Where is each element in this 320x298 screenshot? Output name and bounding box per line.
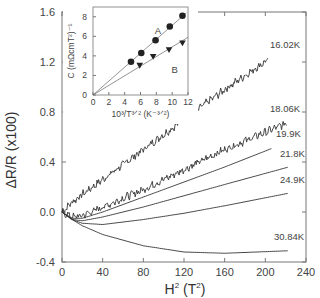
curve-label: 16.02K (270, 39, 301, 50)
inset-x-tick: 2 (106, 97, 111, 107)
inset-x-tick: 0 (91, 97, 96, 107)
marker-circle (179, 13, 186, 20)
inset-y-tick: 2 (82, 70, 87, 80)
y-axis-label: ΔR/R (x100) (3, 111, 19, 188)
y-tick-label: 0.8 (40, 106, 55, 118)
inset-chart: 0246810120246810³/T³ᐟ² (K⁻³ᐟ²)C (mΩcmT²)… (63, 4, 198, 124)
x-tick-label: 0 (59, 266, 65, 278)
inset-x-label: 10³/T³ᐟ² (K⁻³ᐟ²) (112, 109, 170, 119)
x-tick-label: 160 (215, 266, 233, 278)
x-axis-label: H2 (T2) (165, 281, 206, 297)
inset-x-tick: 6 (138, 97, 143, 107)
y-tick-label: 1.6 (40, 6, 55, 18)
curve-label: 30.84K (274, 231, 305, 242)
inset-x-tick: 12 (183, 97, 193, 107)
marker-circle (138, 50, 145, 57)
inset-y-tick: 6 (82, 31, 87, 41)
x-tick-label: 240 (297, 266, 315, 278)
y-tick-label: 0.0 (40, 206, 55, 218)
inset-x-tick: 8 (154, 97, 159, 107)
inset-series-label-B: B (171, 64, 177, 75)
inset-y-label: C (mΩcmT²)⁻¹ (66, 23, 76, 78)
y-tick-label: 1.2 (40, 56, 55, 68)
curve-label: 19.9K (276, 128, 301, 139)
y-tick-label: 0.4 (40, 156, 55, 168)
inset-series-label-A: A (155, 25, 162, 36)
inset-y-tick: 0 (82, 90, 87, 100)
inset-y-tick: 4 (82, 51, 87, 61)
marker-circle (152, 37, 159, 44)
inset-y-tick: 8 (82, 12, 87, 22)
x-tick-label: 80 (137, 266, 149, 278)
y-tick-label: -0.4 (36, 256, 55, 268)
marker-circle (166, 23, 173, 30)
curve-18.06K (62, 121, 287, 218)
x-tick-label: 120 (175, 266, 193, 278)
curve-label: 24.9K (280, 174, 305, 185)
inset-x-tick: 10 (167, 97, 177, 107)
x-tick-label: 40 (97, 266, 109, 278)
curve-label: 18.06K (270, 103, 301, 114)
inset-x-tick: 4 (122, 97, 127, 107)
x-tick-label: 200 (256, 266, 274, 278)
curve-label: 21.8K (280, 148, 305, 159)
magnetoresistance-chart: 1.61.20.80.40.0-0.404080120160200240H2 (… (0, 0, 320, 298)
marker-circle (128, 58, 135, 65)
